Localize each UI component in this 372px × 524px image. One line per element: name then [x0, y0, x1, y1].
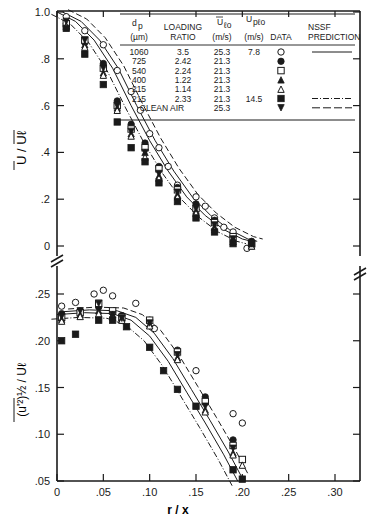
data-point	[142, 159, 148, 165]
data-point	[165, 163, 171, 169]
data-point	[72, 299, 78, 305]
x-tick-label: .05	[96, 486, 111, 498]
svg-text:(u'²)½ / Uℓ: (u'²)½ / Uℓ	[15, 363, 29, 417]
legend-marker	[278, 105, 284, 111]
data-point	[230, 410, 236, 416]
chart: 1.0.8.6.4.20.25.20.15.10.050.05.10.15.20…	[0, 0, 372, 524]
y-tick-label: .15	[35, 382, 50, 394]
y-tick-label: .25	[35, 288, 50, 300]
data-point	[109, 293, 115, 299]
data-point	[202, 203, 208, 209]
data-point	[156, 145, 162, 151]
upper-y-axis-label: U / Uℓ	[14, 130, 29, 170]
legend-row: CLEAN AIR25.3	[140, 103, 352, 113]
data-point	[239, 420, 245, 426]
data-point	[156, 180, 162, 186]
data-point	[221, 224, 227, 230]
legend-header-up-unit: (m/s)	[244, 32, 264, 42]
legend-row: 7252.4221.3	[132, 56, 284, 66]
x-tick-label: .25	[281, 486, 296, 498]
y-tick-label: .6	[41, 100, 50, 112]
legend-header-up-sub: pℓo	[253, 17, 265, 27]
legend-cell-up: 7.8	[248, 47, 260, 57]
data-point	[123, 324, 129, 330]
data-point	[239, 476, 245, 482]
data-point	[114, 67, 120, 73]
data-point	[72, 331, 78, 337]
y-tick-label: .05	[35, 475, 50, 487]
legend-marker	[278, 49, 284, 55]
data-point	[58, 338, 64, 344]
y-tick-label: .4	[41, 146, 50, 158]
legend-marker	[278, 86, 284, 92]
data-point	[96, 317, 102, 323]
legend-header-ratio: RATIO	[170, 32, 196, 42]
legend-header-prediction: PREDICTION	[308, 32, 360, 42]
data-point	[100, 81, 106, 87]
legend-header-nssf: NSSF	[308, 22, 331, 32]
data-point	[100, 42, 106, 48]
data-point	[91, 291, 97, 297]
x-axis-label: r / x	[167, 503, 189, 517]
data-point	[174, 386, 180, 392]
data-point	[63, 25, 69, 31]
data-point	[211, 229, 217, 235]
data-point	[160, 367, 166, 373]
legend-header-dp-sub: p	[138, 21, 143, 31]
data-point	[82, 28, 88, 34]
legend-marker	[278, 77, 284, 83]
legend-marker	[278, 67, 284, 73]
y-tick-label: 1.0	[35, 6, 50, 18]
y-tick-label: .10	[35, 428, 50, 440]
legend-table: dp(µm)LOADINGRATIOUℓo(m/s)Upℓo(m/s)DATAN…	[120, 14, 360, 120]
svg-text:U / Uℓ: U / Uℓ	[14, 130, 29, 165]
x-tick-label: .15	[188, 486, 203, 498]
legend-header-dp-unit: (µm)	[130, 32, 148, 42]
legend-header-up: U	[246, 14, 252, 24]
data-point	[146, 344, 152, 350]
data-point	[133, 300, 139, 306]
legend-header-uc: U	[217, 17, 223, 27]
x-tick-label: .10	[142, 486, 157, 498]
data-point	[100, 287, 106, 293]
legend-header-uc-unit: (m/s)	[212, 32, 232, 42]
x-tick-label: .20	[235, 486, 250, 498]
legend-header-data: DATA	[270, 32, 292, 42]
data-point	[230, 467, 236, 473]
lower-y-axis-label: (u'²)½ / Uℓ	[14, 363, 29, 422]
prediction-solid	[62, 310, 243, 478]
legend-header-loading: LOADING	[164, 22, 202, 32]
data-point	[146, 130, 152, 136]
data-point	[193, 403, 199, 409]
legend-header-dp: d	[132, 18, 137, 28]
x-tick-label: .30	[327, 486, 342, 498]
legend-row: 10603.525.37.8	[130, 47, 352, 57]
data-point	[156, 170, 162, 176]
data-point	[193, 367, 199, 373]
legend-cell-uc: 25.3	[214, 103, 231, 113]
legend-row: 4001.2221.3	[132, 75, 284, 85]
y-tick-label: 0	[44, 240, 50, 252]
legend-header-uc-sub: ℓo	[223, 20, 232, 30]
legend-cell-up: 14.5	[246, 94, 263, 104]
y-tick-label: .2	[41, 193, 50, 205]
legend-row: 5402.2421.3	[132, 66, 284, 76]
data-point	[58, 303, 64, 309]
data-point	[128, 145, 134, 151]
data-point	[82, 51, 88, 57]
data-point	[193, 215, 199, 221]
legend-marker	[278, 95, 284, 101]
data-point	[193, 194, 199, 200]
x-tick-label: 0	[54, 486, 60, 498]
prediction-solid	[57, 313, 238, 481]
data-point	[114, 119, 120, 125]
legend-cell-dp: CLEAN AIR	[140, 103, 184, 113]
prediction-dashed	[68, 307, 249, 475]
plot-frame	[51, 11, 366, 481]
y-tick-label: .20	[35, 335, 50, 347]
y-tick-label: .8	[41, 53, 50, 65]
legend-marker	[278, 58, 284, 64]
data-point	[174, 198, 180, 204]
